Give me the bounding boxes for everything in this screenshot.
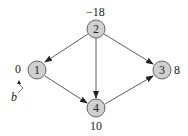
- node-2-value: −18: [86, 6, 105, 18]
- node-3-value: 8: [174, 64, 180, 76]
- annotation-b-label: b: [11, 91, 17, 103]
- node-3-label: 3: [153, 64, 171, 76]
- annotation-b-arrow: [18, 84, 23, 93]
- edge-2-1: [45, 34, 88, 62]
- node-2-label: 2: [87, 23, 105, 35]
- edge-2-3: [104, 34, 153, 64]
- node-1-value: 0: [15, 63, 21, 75]
- node-1-label: 1: [28, 64, 46, 76]
- edge-4-3: [105, 76, 153, 104]
- edge-1-4: [45, 76, 87, 103]
- node-4-value: 10: [90, 120, 102, 132]
- node-4-label: 4: [87, 102, 105, 114]
- graph-diagram: 1 2 3 4 0 −18 8 10 b: [0, 0, 188, 136]
